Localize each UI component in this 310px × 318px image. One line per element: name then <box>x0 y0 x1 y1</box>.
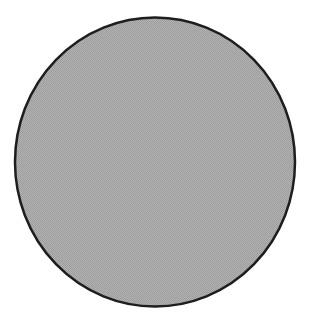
canvas <box>0 0 310 318</box>
gray-circle <box>0 0 310 318</box>
circle-shape <box>15 18 295 307</box>
